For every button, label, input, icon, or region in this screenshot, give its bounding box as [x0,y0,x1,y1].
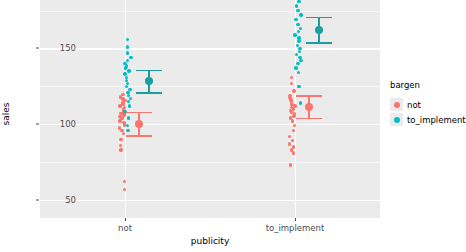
y-axis-tick-label: 150 [60,43,76,53]
x-axis-tick-mark [125,218,126,221]
error-bar-cap-upper [306,17,332,18]
legend-dot-icon [394,102,400,108]
x-axis-tick-label: not [118,223,132,233]
y-axis-tick-label: 50 [65,195,76,205]
mean-marker [315,26,323,34]
legend-item-label: not [407,100,421,110]
legend-key-swatch [390,113,403,126]
legend-dot-icon [394,117,400,123]
legend-items: notto_implement [390,97,462,127]
legend-item[interactable]: not [390,97,462,112]
error-bar-cap-lower [306,42,332,43]
legend-title: bargen [390,80,462,90]
legend: bargen notto_implement [390,80,462,127]
y-axis-tick-mark [36,199,39,200]
y-axis-tick-mark [36,48,39,49]
x-axis-title: publicity [40,236,380,246]
legend-key-swatch [390,98,403,111]
y-axis-tick-label: 100 [60,119,76,129]
legend-item[interactable]: to_implement [390,112,462,127]
error-bar [40,0,380,218]
y-axis-tick-mark [36,124,39,125]
x-axis-tick-mark [295,218,296,221]
legend-item-label: to_implement [407,115,466,125]
x-axis-tick-label: to_implement [266,223,325,233]
plot-panel [40,0,380,218]
y-axis-title: sales [1,84,11,144]
